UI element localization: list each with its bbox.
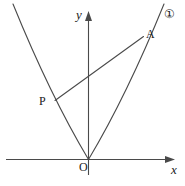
y-axis bbox=[85, 11, 92, 175]
y-axis-arrowhead bbox=[85, 11, 92, 21]
segment-PA bbox=[55, 37, 144, 101]
point-label-a: A bbox=[146, 28, 155, 40]
y-axis-label: y bbox=[76, 8, 82, 21]
x-axis-label: x bbox=[171, 163, 177, 176]
figure-canvas bbox=[0, 0, 185, 186]
parabola-figure: y x O P A ① bbox=[0, 0, 185, 186]
origin-label: O bbox=[79, 161, 88, 173]
point-label-p: P bbox=[39, 95, 46, 107]
curve-label-circled-one: ① bbox=[164, 8, 175, 20]
